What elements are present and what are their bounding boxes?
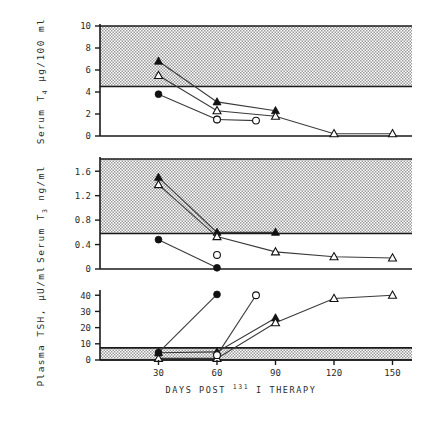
marker-open-circle-middle-0 [214,252,221,259]
y-tick-label-middle-3: 1.2 [75,191,91,201]
y-tick-label-middle-2: 0.8 [75,215,91,225]
y-tick-label-top-4: 8 [86,43,91,53]
y-tick-label-top-3: 6 [86,65,91,75]
normal-range-band-top [100,26,412,87]
x-tick-label-1: 60 [212,368,223,378]
panel-bottom: 010203040Plasma TSH, µU/ml [35,265,413,386]
x-tick-label-2: 90 [270,368,281,378]
y-tick-label-middle-4: 1.6 [75,167,91,177]
y-tick-label-top-5: 10 [80,21,91,31]
figure-container: 0246810Serum T4 µg/100 ml00.40.81.21.6Se… [0,0,430,431]
marker-filled-circle-bottom-0 [155,349,162,356]
marker-filled-circle-middle-1 [214,264,221,271]
y-tick-label-top-1: 2 [86,109,91,119]
x-tick-label-3: 120 [326,368,342,378]
series-line-top-patient-4-open-circle [217,120,256,121]
marker-filled-circle-middle-0 [155,236,162,243]
normal-range-band-middle [100,159,412,234]
panels-group: 0246810Serum T4 µg/100 ml00.40.81.21.6Se… [35,18,413,387]
y-tick-label-middle-1: 0.4 [75,240,91,250]
marker-filled-circle-bottom-1 [214,291,221,298]
series-line-bottom-patient-3-filled-circle [159,294,218,352]
y-tick-label-bottom-3: 30 [80,307,91,317]
panel-middle: 00.40.81.21.6Serum T3 ng/ml [35,157,413,274]
y-tick-label-bottom-1: 10 [80,339,91,349]
y-axis-title-group-bottom: Plasma TSH, µU/ml [35,265,46,386]
x-axis-title: DAYS POST 131 I THERAPY [166,383,317,395]
y-tick-label-bottom-4: 40 [80,291,91,301]
y-tick-label-bottom-0: 0 [86,355,91,365]
y-axis-title-bottom: Plasma TSH, µU/ml [35,265,46,386]
x-tick-label-4: 150 [384,368,400,378]
x-tick-label-0: 30 [153,368,164,378]
y-tick-label-middle-0: 0 [86,264,91,274]
normal-range-band-bottom [100,348,412,360]
panel-top: 0246810Serum T4 µg/100 ml [35,18,413,144]
three-panel-line-chart: 0246810Serum T4 µg/100 ml00.40.81.21.6Se… [0,0,430,431]
marker-filled-circle-top-0 [155,91,162,98]
y-tick-label-bottom-2: 20 [80,323,91,333]
y-axis-title-middle: Serum T3 ng/ml [35,165,49,263]
marker-open-triangle-bottom-4 [389,291,397,298]
series-line-middle-patient-3-filled-circle [159,240,218,268]
shared-x-axis: 306090120150DAYS POST 131 I THERAPY [153,360,401,395]
marker-open-triangle-top-1 [213,107,221,114]
y-axis-title-group-top: Serum T4 µg/100 ml [35,18,49,144]
y-tick-label-top-0: 0 [86,131,91,141]
marker-open-circle-top-1 [253,117,260,124]
y-axis-title-group-middle: Serum T3 ng/ml [35,165,49,263]
y-axis-title-top: Serum T4 µg/100 ml [35,18,49,144]
marker-open-circle-bottom-0 [214,352,221,359]
series-line-top-patient-3-filled-circle [159,94,218,119]
marker-open-circle-top-0 [214,116,221,123]
marker-open-triangle-top-4 [389,130,397,137]
y-tick-label-top-2: 4 [86,87,91,97]
marker-open-circle-bottom-1 [253,292,260,299]
marker-filled-triangle-top-1 [213,98,221,105]
